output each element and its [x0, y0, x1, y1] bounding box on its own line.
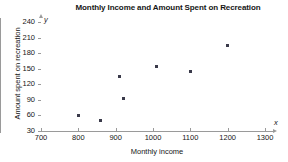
y-axis-variable-label: y	[44, 15, 48, 24]
x-tick-mark	[78, 128, 79, 131]
x-axis-variable-label: x	[274, 118, 278, 127]
x-axis-title: Monthly income	[41, 147, 273, 156]
chart-title: Monthly Income and Amount Spent on Recre…	[52, 3, 284, 13]
data-point	[118, 75, 121, 78]
y-tick-mark	[38, 131, 41, 132]
y-tick-label: 150	[17, 65, 35, 73]
x-tick-mark	[116, 128, 117, 131]
x-tick-label: 1100	[177, 134, 203, 142]
x-tick-label: 1200	[215, 134, 241, 142]
x-axis-line	[41, 131, 273, 132]
x-tick-mark	[265, 128, 266, 131]
y-tick-mark	[38, 84, 41, 85]
x-tick-mark	[228, 128, 229, 131]
y-tick-mark	[38, 69, 41, 70]
y-tick-mark	[38, 38, 41, 39]
x-tick-mark	[190, 128, 191, 131]
x-tick-label: 1300	[252, 134, 278, 142]
y-tick-mark	[38, 53, 41, 54]
y-tick-label: 60	[17, 111, 35, 119]
x-tick-label: 700	[28, 134, 54, 142]
data-point	[99, 119, 102, 122]
x-tick-label: 1000	[140, 134, 166, 142]
x-tick-label: 900	[103, 134, 129, 142]
x-axis-arrow-icon	[273, 129, 277, 133]
y-tick-label: 180	[17, 49, 35, 57]
x-tick-mark	[153, 128, 154, 131]
x-tick-mark	[41, 128, 42, 131]
data-point	[122, 97, 125, 100]
y-axis-arrow-icon	[39, 14, 43, 18]
y-tick-label: 210	[17, 34, 35, 42]
data-point	[155, 65, 158, 68]
x-tick-label: 800	[65, 134, 91, 142]
scatter-plot-figure: Monthly Income and Amount Spent on Recre…	[0, 0, 288, 162]
y-tick-mark	[38, 100, 41, 101]
y-tick-mark	[38, 115, 41, 116]
y-tick-mark	[38, 22, 41, 23]
y-tick-label: 240	[17, 18, 35, 26]
y-axis-line	[0, 18, 1, 133]
data-point	[226, 44, 229, 47]
y-tick-label: 90	[17, 96, 35, 104]
data-point	[77, 114, 80, 117]
y-tick-label: 120	[17, 80, 35, 88]
data-point	[189, 70, 192, 73]
